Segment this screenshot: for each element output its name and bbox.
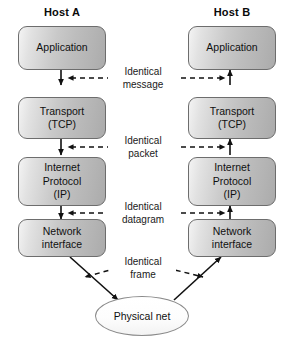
peer-link-label-frame: Identical frame: [110, 256, 176, 281]
host-b-layer-network-interface-label: Network interface: [212, 225, 252, 252]
peer-link-label-message: Identical message: [108, 66, 178, 91]
host-b-layer-transport[interactable]: Transport (TCP): [188, 97, 276, 139]
host-a-layer-application-label: Application: [36, 41, 87, 55]
host-b-title: Host B: [188, 6, 276, 18]
host-a-layer-network-interface-label: Network interface: [42, 225, 82, 252]
host-b-layer-internet[interactable]: Internet Protocol (IP): [188, 157, 276, 206]
physical-net-label: Physical net: [114, 310, 171, 322]
host-a-layer-network-interface[interactable]: Network interface: [18, 219, 106, 257]
host-a-layer-transport-label: Transport (TCP): [40, 105, 85, 132]
host-b-layer-application[interactable]: Application: [188, 26, 276, 70]
physical-net-node[interactable]: Physical net: [95, 296, 189, 336]
host-b-layer-transport-label: Transport (TCP): [210, 105, 255, 132]
host-a-layer-internet-label: Internet Protocol (IP): [43, 161, 82, 202]
host-b-layer-internet-label: Internet Protocol (IP): [213, 161, 252, 202]
host-a-layer-internet[interactable]: Internet Protocol (IP): [18, 157, 106, 206]
arrow-b-physical-to-network: [174, 257, 221, 300]
peer-link-label-packet: Identical packet: [108, 135, 178, 160]
peer-link-label-datagram: Identical datagram: [106, 201, 180, 226]
host-a-layer-transport[interactable]: Transport (TCP): [18, 97, 106, 139]
host-a-title: Host A: [18, 6, 106, 18]
protocol-stack-diagram: Host A Host B Application Transport (TCP…: [0, 0, 282, 344]
host-b-layer-network-interface[interactable]: Network interface: [188, 219, 276, 257]
host-b-layer-application-label: Application: [206, 41, 257, 55]
host-a-layer-application[interactable]: Application: [18, 26, 106, 70]
